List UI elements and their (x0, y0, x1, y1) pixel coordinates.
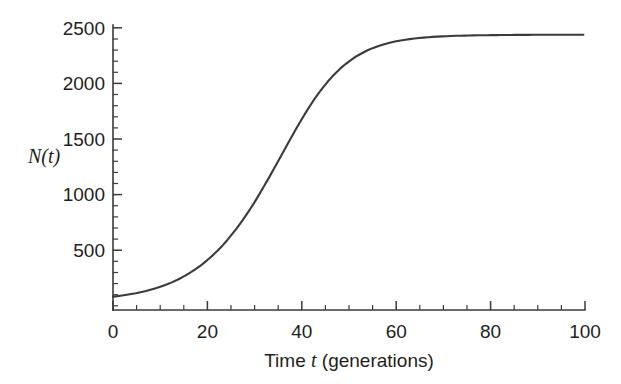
x-tick-label-20: 20 (197, 321, 218, 342)
y-tick-label-2000: 2000 (63, 73, 105, 94)
chart-page: 2500 2000 1500 1000 500 (0, 0, 621, 384)
y-axis-title-suffix: (t) (41, 145, 60, 168)
y-tick-label-2500: 2500 (63, 18, 105, 39)
x-axis-title-suffix: (generations) (317, 350, 434, 371)
y-tick-label-1000: 1000 (63, 184, 105, 205)
x-axis-title-prefix: Time (264, 350, 311, 371)
x-tick-label-100: 100 (569, 321, 601, 342)
y-tick-label-1500: 1500 (63, 129, 105, 150)
x-tick-label-60: 60 (386, 321, 407, 342)
y-tick-label-500: 500 (73, 240, 105, 261)
y-axis-title: N(t) (27, 145, 61, 168)
x-axis-title: Time t (generations) (264, 349, 434, 371)
logistic-growth-chart: 2500 2000 1500 1000 500 (0, 0, 621, 384)
x-tick-label-40: 40 (291, 321, 312, 342)
x-tick-label-0: 0 (108, 321, 119, 342)
x-tick-label-80: 80 (480, 321, 501, 342)
